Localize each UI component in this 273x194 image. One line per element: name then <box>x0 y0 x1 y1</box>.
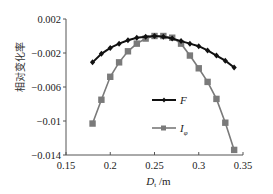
diamond-marker <box>196 43 201 49</box>
y-tick-label: −0.014 <box>31 150 61 161</box>
x-tick-label: 0.35 <box>234 160 252 171</box>
square-marker <box>125 48 131 54</box>
square-marker <box>89 120 95 126</box>
square-marker <box>98 97 104 103</box>
series-f <box>90 33 237 70</box>
legend: FIφ <box>152 94 188 137</box>
square-marker <box>107 74 113 80</box>
square-marker <box>187 52 193 58</box>
square-marker <box>213 96 219 102</box>
y-tick-label: −0.01 <box>37 116 61 127</box>
series-line <box>93 36 235 67</box>
x-tick-label: 0.15 <box>57 160 75 171</box>
legend-item-f: F <box>152 94 187 106</box>
plot-area <box>89 33 237 153</box>
y-tick-label: −0.002 <box>31 48 61 59</box>
legend-diamond-marker <box>162 98 166 103</box>
diamond-marker <box>117 41 122 47</box>
series-i <box>89 33 237 153</box>
square-marker <box>231 147 237 153</box>
x-tick-label: 0.25 <box>145 160 163 171</box>
diamond-marker <box>134 35 139 41</box>
diamond-marker <box>125 37 130 43</box>
square-marker <box>204 79 210 85</box>
y-tick-label: −0.006 <box>31 82 61 93</box>
square-marker <box>196 65 202 71</box>
legend-square-marker <box>161 126 166 131</box>
legend-label: Iφ <box>179 122 188 137</box>
x-tick-label: 0.3 <box>192 160 205 171</box>
legend-label: F <box>179 94 187 106</box>
y-tick-label: 0.002 <box>37 14 61 25</box>
diamond-marker <box>187 41 192 47</box>
legend-item-i: Iφ <box>152 122 188 137</box>
line-chart: 0.002−0.002−0.006−0.01−0.0140.150.20.250… <box>0 0 273 194</box>
x-axis-label: Dt /m <box>145 175 171 189</box>
y-axis-label: 相对变化率 <box>14 42 26 92</box>
square-marker <box>222 120 228 126</box>
square-marker <box>116 59 122 65</box>
square-marker <box>134 40 140 46</box>
x-tick-label: 0.2 <box>104 160 117 171</box>
axes <box>63 19 243 155</box>
